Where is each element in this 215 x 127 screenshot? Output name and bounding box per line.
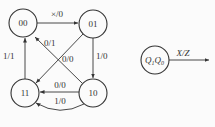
transition-label: 0/0 [62, 54, 74, 64]
legend-state-label: Q1Q0 [145, 55, 164, 66]
transition-11-00: 1/1 [3, 38, 25, 79]
transition-10-11-zero: 0/0 [40, 80, 79, 92]
transition-label: 1/0 [54, 96, 66, 106]
state-00-label: 00 [19, 18, 29, 28]
transition-10-11-one: 1/0 [36, 96, 84, 110]
state-00: 00 [9, 9, 37, 37]
legend: Q1Q0 X/Z [141, 46, 209, 74]
state-01: 01 [79, 10, 107, 38]
state-10: 10 [79, 79, 107, 107]
transition-label: 0/0 [54, 80, 66, 90]
transition-label: 1/0 [96, 51, 108, 61]
transition-label: 1/1 [3, 51, 15, 61]
state-11-label: 11 [21, 88, 30, 98]
state-10-label: 10 [89, 88, 99, 98]
state-01-label: 01 [89, 19, 98, 29]
transition-00-01: ×/0 [37, 9, 78, 23]
state-11: 11 [11, 79, 39, 107]
transition-01-10: 1/0 [93, 38, 108, 78]
diagram-canvas: 00 01 11 10 ×/0 1/0 0/0 0/1 [0, 0, 215, 127]
legend-arrow-label: X/Z [175, 48, 190, 58]
transition-label: ×/0 [51, 9, 64, 19]
state-diagram: 00 01 11 10 ×/0 1/0 0/0 0/1 [0, 0, 215, 127]
transition-label: 0/1 [44, 38, 56, 48]
